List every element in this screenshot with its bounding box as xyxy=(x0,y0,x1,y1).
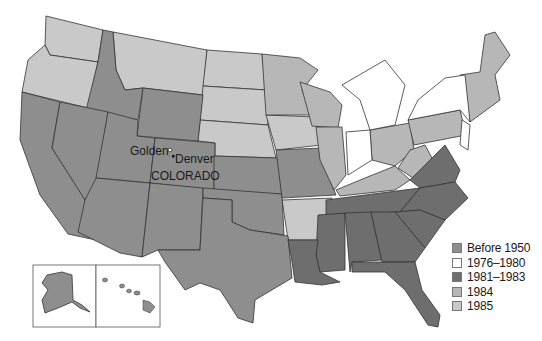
label-golden: Golden xyxy=(130,144,169,158)
legend-item-before-1950: Before 1950 xyxy=(452,241,530,256)
state-kansas xyxy=(214,156,282,194)
state-washington xyxy=(45,16,103,62)
state-mississippi xyxy=(316,213,345,272)
legend-item-1985: 1985 xyxy=(452,299,530,314)
state-wyoming xyxy=(137,88,203,141)
state-north-dakota xyxy=(203,50,266,90)
legend: Before 1950 1976–1980 1981–1983 1984 198… xyxy=(452,241,530,314)
state-indiana xyxy=(346,130,372,175)
golden-marker xyxy=(168,148,172,152)
state-new-mexico xyxy=(142,183,203,257)
legend-item-1981-1983: 1981–1983 xyxy=(452,270,530,285)
state-new-jersey xyxy=(460,120,470,150)
label-denver: Denver xyxy=(175,152,214,166)
swatch-1981-1983 xyxy=(452,272,462,282)
state-michigan xyxy=(342,60,405,130)
legend-item-1984: 1984 xyxy=(452,285,530,300)
swatch-1985 xyxy=(452,301,462,311)
legend-item-1976-1980: 1976–1980 xyxy=(452,256,530,271)
state-south-dakota xyxy=(200,86,268,125)
state-montana xyxy=(113,32,207,95)
state-florida xyxy=(352,262,440,327)
label-colorado: COLORADO xyxy=(151,169,220,183)
swatch-before-1950 xyxy=(452,243,462,253)
inset-hawaii-box xyxy=(96,265,160,327)
swatch-1984 xyxy=(452,287,462,297)
swatch-1976-1980 xyxy=(452,258,462,268)
